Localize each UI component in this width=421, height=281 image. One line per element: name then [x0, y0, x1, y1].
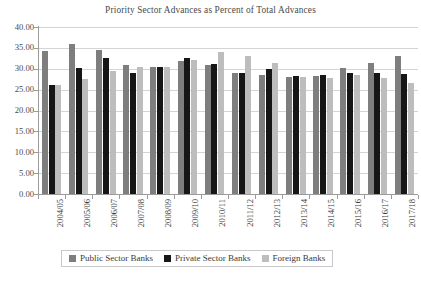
- bar: [313, 76, 319, 194]
- bar: [245, 56, 251, 194]
- bar: [157, 67, 163, 194]
- legend-item-label: Private Sector Banks: [175, 254, 251, 263]
- x-axis-tick-label: 2010/11: [218, 199, 227, 245]
- bar: [150, 67, 156, 194]
- x-axis-tick-label: 2015/16: [354, 199, 363, 245]
- bar: [55, 85, 61, 194]
- bar: [76, 68, 82, 195]
- bar: [272, 63, 278, 195]
- x-axis-tick-mark: [418, 195, 419, 199]
- y-axis-tick-label: 0.00: [19, 190, 34, 199]
- bar: [123, 65, 129, 194]
- x-axis-labels: 2004/052005/062006/072007/082008/092009/…: [38, 199, 418, 245]
- x-axis-tick-label: 2012/13: [273, 199, 282, 245]
- bar-group: [228, 27, 255, 194]
- bar: [205, 65, 211, 194]
- bar-group: [92, 27, 119, 194]
- chart-legend: Public Sector BanksPrivate Sector BanksF…: [61, 250, 333, 267]
- y-axis-tick-label: 35.00: [15, 43, 34, 52]
- bar: [130, 73, 136, 194]
- bar: [300, 77, 306, 194]
- bar: [49, 85, 55, 194]
- x-axis-tick-label: 2006/07: [110, 199, 119, 245]
- y-axis-tick-label: 25.00: [15, 85, 34, 94]
- bars-layer: [38, 27, 418, 194]
- legend-item-label: Foreign Banks: [273, 254, 326, 263]
- x-axis-tick-label: 2004/05: [56, 199, 65, 245]
- bar: [137, 67, 143, 194]
- chart-title: Priority Sector Advances as Percent of T…: [0, 5, 421, 15]
- bar: [184, 58, 190, 194]
- bar: [218, 52, 224, 194]
- bar: [374, 73, 380, 194]
- bar: [327, 78, 333, 194]
- bar: [110, 71, 116, 194]
- x-axis-tick-label: 2013/14: [300, 199, 309, 245]
- legend-item[interactable]: Private Sector Banks: [164, 254, 251, 263]
- bar: [259, 75, 265, 194]
- bar: [211, 64, 217, 194]
- x-axis-tick-label: 2011/12: [246, 199, 255, 245]
- bar-group: [201, 27, 228, 194]
- bar-group: [309, 27, 336, 194]
- bar: [381, 78, 387, 194]
- legend-item[interactable]: Foreign Banks: [262, 254, 326, 263]
- x-axis-tick-label: 2014/15: [327, 199, 336, 245]
- bar-group: [255, 27, 282, 194]
- bar: [368, 63, 374, 195]
- bar: [232, 73, 238, 194]
- bar: [191, 60, 197, 194]
- legend-swatch-public-sector-banks: [69, 255, 76, 262]
- legend-item-label: Public Sector Banks: [80, 254, 153, 263]
- x-axis-tick-label: 2016/17: [381, 199, 390, 245]
- bar-group: [364, 27, 391, 194]
- bar-group: [38, 27, 65, 194]
- bar: [178, 61, 184, 194]
- y-axis-tick-label: 10.00: [15, 148, 34, 157]
- bar: [354, 75, 360, 194]
- x-axis-tick-label: 2008/09: [164, 199, 173, 245]
- bar: [286, 77, 292, 194]
- bar-group: [147, 27, 174, 194]
- bar: [320, 75, 326, 194]
- bar: [96, 50, 102, 194]
- bar: [164, 67, 170, 194]
- bar-group: [65, 27, 92, 194]
- bar: [293, 76, 299, 194]
- y-axis-tick-label: 30.00: [15, 64, 34, 73]
- y-axis-tick-label: 40.00: [15, 23, 34, 32]
- bar: [347, 73, 353, 194]
- bar-group: [174, 27, 201, 194]
- bar: [395, 56, 401, 194]
- bar: [266, 69, 272, 194]
- x-axis-tick-label: 2009/10: [191, 199, 200, 245]
- y-axis-tick-label: 20.00: [15, 106, 34, 115]
- y-axis-labels: 40.0035.0030.0025.0020.0015.0010.005.000…: [0, 27, 34, 194]
- bar: [42, 51, 48, 194]
- bar-group: [282, 27, 309, 194]
- bar-group: [337, 27, 364, 194]
- y-axis-tick-label: 5.00: [19, 169, 34, 178]
- bar-group: [391, 27, 418, 194]
- bar: [69, 44, 75, 194]
- bar: [82, 79, 88, 194]
- legend-swatch-private-sector-banks: [164, 255, 171, 262]
- bar: [408, 83, 414, 194]
- legend-swatch-foreign-banks: [262, 255, 269, 262]
- bar-group: [119, 27, 146, 194]
- x-axis-tick-label: 2005/06: [83, 199, 92, 245]
- bar-chart: Priority Sector Advances as Percent of T…: [0, 0, 421, 281]
- bar: [401, 74, 407, 194]
- legend-item[interactable]: Public Sector Banks: [69, 254, 153, 263]
- bar: [340, 68, 346, 194]
- x-axis-tick-label: 2017/18: [408, 199, 417, 245]
- bar: [239, 73, 245, 194]
- x-axis-tick-label: 2007/08: [137, 199, 146, 245]
- y-axis-tick-label: 15.00: [15, 127, 34, 136]
- bar: [103, 58, 109, 194]
